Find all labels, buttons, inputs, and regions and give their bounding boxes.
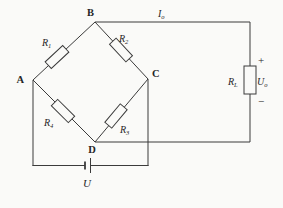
- resistor-rl-box: [244, 66, 256, 94]
- node-a-label: A: [16, 74, 24, 85]
- circuit-canvas: B A C D R1 R2 R4 R3 RL Io + Uo − U: [0, 0, 283, 208]
- r4-subscript: 4: [50, 122, 54, 129]
- resistor-r4-label: R4: [43, 117, 54, 129]
- resistor-r3-label: R3: [119, 124, 130, 136]
- resistor-r4-box: [51, 99, 74, 122]
- node-c-label: C: [152, 68, 160, 79]
- uo-subscript: o: [264, 81, 268, 88]
- polarity-minus-label: −: [258, 95, 264, 107]
- rl-subscript: L: [233, 81, 238, 88]
- output-voltage-label: Uo: [257, 76, 268, 88]
- r3-symbol: R: [119, 124, 126, 135]
- battery-icon: [85, 158, 91, 173]
- resistor-rl-label: RL: [227, 76, 238, 88]
- node-d-label: D: [88, 144, 96, 155]
- output-current-label: Io: [157, 8, 165, 20]
- node-b-label: B: [87, 7, 94, 18]
- rl-symbol: R: [227, 76, 234, 87]
- r4-symbol: R: [43, 117, 50, 128]
- resistor-r2-label: R2: [118, 33, 129, 45]
- r2-subscript: 2: [125, 38, 129, 45]
- io-subscript: o: [161, 13, 165, 20]
- r1-subscript: 1: [48, 42, 51, 49]
- r3-subscript: 3: [125, 129, 130, 136]
- wheatstone-bridge-diagram: B A C D R1 R2 R4 R3 RL Io + Uo − U: [0, 0, 283, 208]
- r2-symbol: R: [118, 33, 125, 44]
- polarity-plus-label: +: [258, 54, 264, 66]
- r1-symbol: R: [41, 37, 48, 48]
- supply-voltage-label: U: [83, 177, 92, 189]
- resistor-r1-label: R1: [41, 37, 51, 49]
